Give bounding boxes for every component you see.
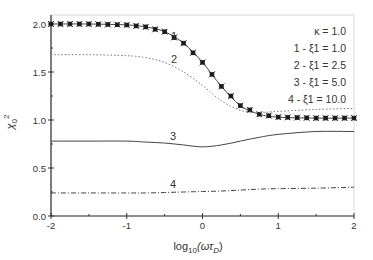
curve-label-1: 1 — [171, 30, 177, 42]
star-marker — [237, 103, 243, 109]
legend: κ = 1.0 1 - ξ1 = 1.0 2 - ξ1 = 2.5 3 - ξ1… — [288, 25, 346, 105]
star-marker — [351, 115, 357, 121]
star-marker — [313, 115, 319, 121]
y-tick-label: 2.0 — [33, 19, 46, 30]
legend-entry-2: 2 - ξ1 = 2.5 — [294, 59, 346, 71]
y-tick-label: 1.0 — [33, 115, 46, 126]
legend-entry-3: 3 - ξ1 = 5.0 — [294, 76, 346, 88]
legend-entry-1: 1 - ξ1 = 1.0 — [294, 42, 346, 54]
star-marker — [342, 115, 348, 121]
star-marker — [228, 93, 234, 99]
chart: 0.00.51.01.52.0-2-1012 1234 log10(ωτD) χ… — [0, 0, 373, 260]
star-marker — [209, 71, 215, 77]
star-marker — [76, 21, 82, 27]
star-marker — [124, 22, 130, 28]
series-3-line — [51, 131, 354, 147]
star-marker — [86, 21, 92, 27]
star-marker — [57, 21, 63, 27]
series-4-line — [51, 187, 354, 193]
star-marker — [218, 83, 224, 89]
x-axis-label: log10(ωτD) — [173, 240, 222, 255]
legend-entry-4: 4 - ξ1 = 10.0 — [288, 93, 346, 105]
star-marker — [114, 22, 120, 28]
y-tick-label: 1.5 — [33, 67, 46, 78]
curve-label-4: 4 — [170, 178, 176, 190]
star-marker — [304, 115, 310, 121]
star-marker — [266, 113, 272, 119]
star-marker — [152, 26, 158, 32]
y-axis-label: χ02 — [2, 114, 19, 130]
x-tick-label: 1 — [276, 220, 281, 231]
star-marker — [294, 115, 300, 121]
x-tick-label: 0 — [200, 220, 205, 231]
star-marker — [323, 115, 329, 121]
star-marker — [275, 114, 281, 120]
star-marker — [285, 114, 291, 120]
star-marker — [105, 21, 111, 27]
x-tick-label: -1 — [123, 220, 131, 231]
star-marker — [48, 21, 54, 27]
y-tick-label: 0.0 — [33, 211, 46, 222]
curve-label-3: 3 — [170, 130, 176, 142]
star-marker — [95, 21, 101, 27]
curve-label-2: 2 — [171, 53, 177, 65]
star-marker — [200, 59, 206, 65]
x-tick-label: -2 — [47, 220, 55, 231]
y-tick-label: 0.5 — [33, 163, 46, 174]
star-marker — [190, 50, 196, 56]
star-marker — [162, 29, 168, 35]
legend-kappa: κ = 1.0 — [314, 25, 346, 37]
x-tick-label: 2 — [351, 220, 356, 231]
star-marker — [332, 115, 338, 121]
star-marker — [133, 23, 139, 29]
star-marker — [181, 40, 187, 46]
star-marker — [67, 21, 73, 27]
star-marker — [143, 24, 149, 30]
labels-layer: 1234 — [170, 30, 177, 190]
